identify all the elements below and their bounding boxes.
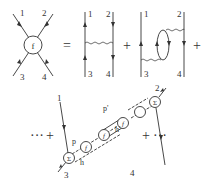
svg-text:Σ: Σ	[153, 99, 157, 107]
svg-text:4: 4	[177, 69, 182, 79]
plus-sign-left: +	[46, 128, 54, 143]
plus-sign-1: +	[123, 38, 131, 53]
term2-diagram: 1 2 3 4	[139, 9, 186, 79]
svg-text:2: 2	[155, 83, 160, 93]
plus-sign-2: +	[193, 38, 201, 53]
equals-sign: =	[63, 38, 71, 53]
svg-text:4: 4	[130, 168, 135, 178]
svg-text:p': p'	[103, 104, 109, 113]
svg-text:h: h	[80, 158, 84, 167]
trailing-ellipsis: ···	[153, 128, 167, 143]
svg-text:2: 2	[42, 8, 47, 18]
svg-text:p: p	[72, 137, 76, 146]
svg-text:1: 1	[57, 93, 62, 103]
svg-text:2: 2	[177, 9, 182, 19]
feynman-diagram-equation: f 1 2 3 4 = 1 2 3 4 + 1 2 3	[0, 0, 210, 183]
term1-diagram: 1 2 3 4	[83, 9, 115, 79]
svg-text:3: 3	[144, 69, 149, 79]
svg-text:3: 3	[64, 170, 69, 180]
svg-text:4: 4	[42, 72, 47, 82]
svg-text:f: f	[32, 41, 35, 51]
svg-text:1: 1	[144, 9, 149, 19]
plus-sign-right: +	[142, 128, 150, 143]
svg-text:h': h'	[115, 125, 121, 134]
svg-text:1: 1	[88, 9, 93, 19]
lhs-vertex-diagram: f 1 2 3 4	[13, 8, 53, 82]
leading-ellipsis: ···	[30, 128, 44, 143]
svg-text:3: 3	[88, 69, 93, 79]
f-vertex-4	[135, 107, 146, 118]
svg-text:Σ: Σ	[67, 155, 71, 163]
svg-text:3: 3	[20, 72, 25, 82]
svg-text:2: 2	[106, 9, 111, 19]
svg-text:1: 1	[20, 8, 25, 18]
svg-text:4: 4	[106, 69, 111, 79]
